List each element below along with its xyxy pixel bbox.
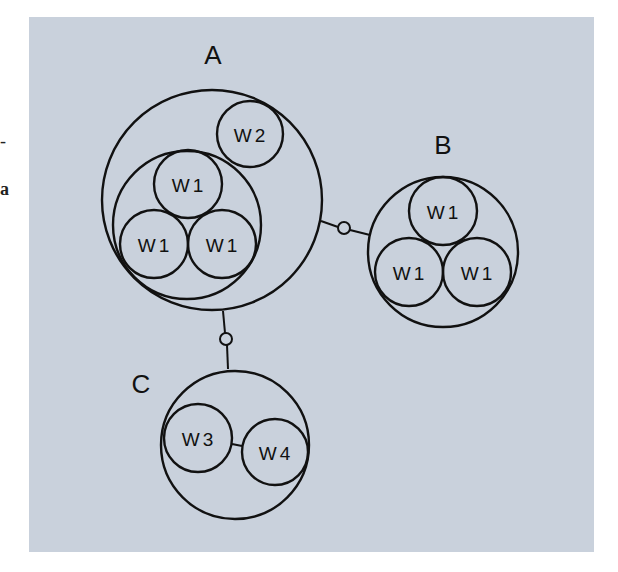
connector-a-b-joint-icon [338,222,350,234]
group-a-label: A [204,40,222,70]
node-b-w1-right: W1 [443,238,511,306]
connector-a-c [220,311,232,369]
node-a-w2-label: W2 [234,125,269,146]
node-c-w4-label: W4 [259,443,294,464]
node-a-w1-top-label: W1 [172,175,207,196]
connector-a-b-line-1 [321,221,338,227]
group-a: A W2 W1 W1 W1 [102,40,322,310]
cluster-diagram: A W2 W1 W1 W1 B W1 [0,0,618,572]
node-a-w1-left: W1 [120,210,188,278]
node-c-w3: W3 [164,404,232,472]
node-b-w1-top-label: W1 [427,202,462,223]
group-b-outer-circle [368,177,518,327]
connector-a-c-line-1 [223,311,225,333]
node-a-w1-right: W1 [188,210,256,278]
connector-a-c-line-2 [227,345,228,369]
node-b-w1-right-label: W1 [461,263,496,284]
group-c: C W3 W4 [132,369,309,519]
group-c-label: C [132,369,151,399]
node-a-w1-right-label: W1 [206,235,241,256]
group-b-label: B [434,130,451,160]
group-a-subgroup-circle [113,151,261,299]
node-a-w1-top: W1 [154,150,222,218]
node-a-w2: W2 [217,101,283,167]
node-c-w3-label: W3 [182,429,217,450]
node-a-w1-left-label: W1 [138,235,173,256]
connector-a-b [321,221,370,235]
node-b-w1-top: W1 [409,177,477,245]
node-c-w4: W4 [242,419,308,485]
group-b: B W1 W1 W1 [368,130,518,327]
connector-a-b-line-2 [350,230,370,235]
connector-a-c-joint-icon [220,333,232,345]
node-b-w1-left: W1 [375,238,443,306]
node-b-w1-left-label: W1 [393,263,428,284]
connector-w3-w4-line [232,444,242,446]
